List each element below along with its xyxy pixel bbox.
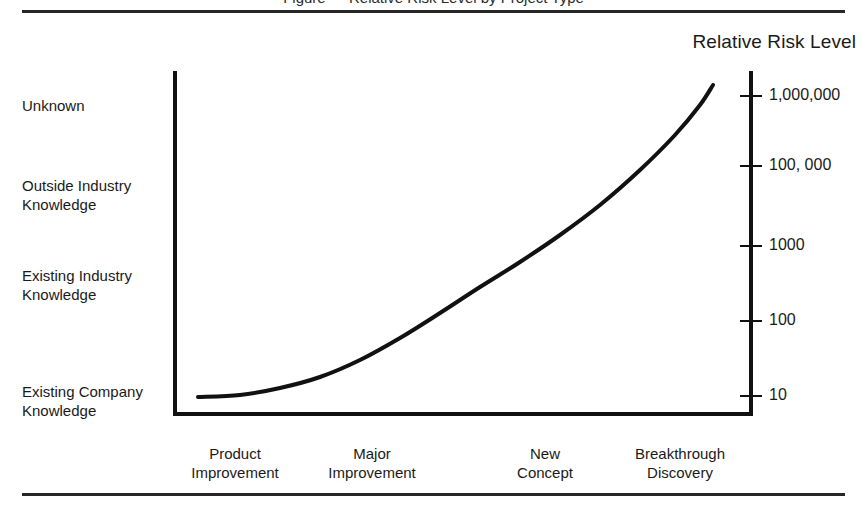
tick-mark-100 xyxy=(740,320,762,322)
tick-mark-1000 xyxy=(740,245,762,247)
y-axis-label-line: Unknown xyxy=(22,96,170,115)
x-axis-label-major-improvement: Major Improvement xyxy=(287,444,457,482)
y-axis-label-outside-industry-knowledge: Outside Industry Knowledge xyxy=(22,176,170,214)
y-axis-label-existing-company-knowledge: Existing Company Knowledge xyxy=(22,382,170,420)
x-axis-label-line: Discovery xyxy=(595,463,765,482)
bottom-divider-rule xyxy=(22,493,845,496)
top-divider-rule xyxy=(22,10,845,13)
x-axis-label-breakthrough-discovery: Breakthrough Discovery xyxy=(595,444,765,482)
y-axis-label-unknown: Unknown xyxy=(22,96,170,115)
y-axis-right xyxy=(749,71,753,416)
tick-label-1000000: 1,000,000 xyxy=(769,86,840,104)
tick-label-100000: 100, 000 xyxy=(769,156,831,174)
tick-mark-100000 xyxy=(740,165,762,167)
tick-label-1000: 1000 xyxy=(769,236,805,254)
tick-mark-1000000 xyxy=(740,95,762,97)
figure-page: Figure — Relative Risk Level by Project … xyxy=(0,0,866,505)
y-axis-left xyxy=(173,71,177,416)
tick-mark-10 xyxy=(740,395,762,397)
y-axis-label-line: Outside Industry xyxy=(22,176,170,195)
risk-curve-path xyxy=(198,85,713,397)
chart-title: Relative Risk Level xyxy=(560,31,856,53)
tick-label-100: 100 xyxy=(769,311,796,329)
clipped-caption-text: Figure — Relative Risk Level by Project … xyxy=(22,0,845,9)
x-axis-label-line: Major xyxy=(287,444,457,463)
risk-curve-svg xyxy=(0,0,866,505)
y-axis-label-line: Knowledge xyxy=(22,195,170,214)
y-axis-label-line: Existing Company xyxy=(22,382,170,401)
x-axis-label-line: Improvement xyxy=(287,463,457,482)
x-axis-label-line: Breakthrough xyxy=(595,444,765,463)
tick-label-10: 10 xyxy=(769,386,787,404)
y-axis-label-line: Knowledge xyxy=(22,285,170,304)
y-axis-label-line: Knowledge xyxy=(22,401,170,420)
x-axis xyxy=(173,412,753,416)
y-axis-label-existing-industry-knowledge: Existing Industry Knowledge xyxy=(22,266,170,304)
y-axis-label-line: Existing Industry xyxy=(22,266,170,285)
